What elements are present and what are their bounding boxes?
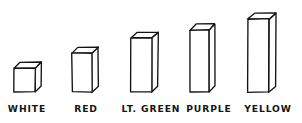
bar-front-face — [248, 19, 269, 93]
category-label-purple: PURPLE — [186, 103, 232, 114]
bar-white — [14, 62, 42, 92]
category-label-white: WHITE — [8, 103, 46, 114]
hand-drawn-bar-chart: WHITEREDLT. GREENPURPLEYELLOW — [0, 0, 302, 123]
bar-side-face — [209, 24, 215, 92]
bar-yellow — [248, 13, 276, 92]
bar-front-face — [131, 38, 152, 92]
bar-front-face — [14, 68, 36, 92]
bar-front-face — [72, 53, 93, 92]
bar-top-face — [14, 62, 41, 68]
bar-side-face — [269, 13, 276, 92]
category-label-yellow: YELLOW — [243, 103, 292, 114]
chart-canvas: WHITEREDLT. GREENPURPLEYELLOW — [0, 0, 302, 123]
bar-side-face — [152, 32, 159, 92]
bars-group — [14, 13, 276, 92]
bar-purple — [190, 24, 215, 93]
bar-front-face — [190, 30, 209, 92]
bar-red — [72, 47, 99, 92]
category-labels-group: WHITEREDLT. GREENPURPLEYELLOW — [8, 103, 292, 114]
category-label-lt-green: LT. GREEN — [122, 103, 181, 114]
category-label-red: RED — [74, 103, 98, 114]
bar-lt-green — [131, 32, 159, 92]
